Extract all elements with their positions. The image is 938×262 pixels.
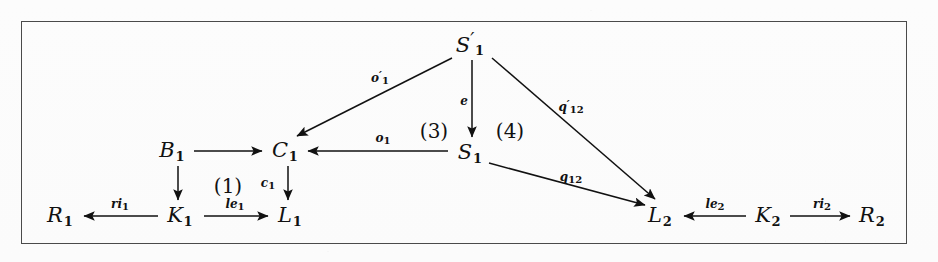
node-S1: S1 [458,142,482,165]
edge-label-e: e [460,95,468,107]
node-K2-base: K [755,203,771,227]
node-S1prime: S′1 [456,31,485,57]
edge-label-o1-prime-sub: 1 [382,75,389,86]
edge-label-q12-prime: q′12 [558,99,583,116]
node-L2: L2 [648,205,672,228]
edge-label-e-text: e [460,94,468,108]
node-K2-sub: 2 [772,213,781,228]
node-K1-base: K [167,203,183,227]
edge-label-le2-sub: 2 [718,201,725,212]
edge-label-ri1-sub: 1 [122,201,129,212]
edge-label-le1: le1 [225,198,244,213]
node-S1prime-base: S [456,33,471,57]
edge-label-o1: o1 [376,132,391,147]
node-C1: C1 [272,140,298,163]
node-B1-sub: 1 [175,148,184,163]
face-label-4: (4) [496,121,524,141]
node-L2-base: L [648,203,662,227]
node-R1: R1 [47,205,73,228]
node-L1-base: L [278,203,292,227]
node-K2: K2 [755,205,781,228]
edge-label-o1-text: o [376,131,384,145]
edge-label-o1-prime-text: o [371,71,379,85]
node-R2: R2 [859,205,885,228]
node-R1-sub: 1 [64,213,73,228]
edge-label-o1-prime: o′1 [371,70,389,87]
edge-label-q12-prime-sub: 12 [570,104,584,115]
edge-label-le1-sub: 1 [238,201,245,212]
face-label-1: (1) [214,176,242,196]
node-R2-base: R [859,203,875,227]
node-S1-sub: 1 [473,150,482,165]
edge-label-c1-sub: 1 [268,180,275,191]
edge-label-ri2-text: ri [813,197,824,211]
edge-label-le1-text: le [225,197,237,211]
node-C1-base: C [272,138,288,162]
edge-label-q12-sub: 12 [568,174,582,185]
edge-label-ri2: ri2 [813,198,831,213]
edge-label-ri1: ri1 [111,198,129,213]
node-K1-sub: 1 [184,213,193,228]
node-C1-sub: 1 [289,148,298,163]
node-L2-sub: 2 [663,213,672,228]
diagram-page: S′1 B1 C1 S1 R1 K1 L1 L2 K2 R2 c1 ri1 le… [0,0,938,262]
node-B1-base: B [159,138,175,162]
edge-label-ri1-text: ri [111,197,122,211]
edge-label-o1-sub: 1 [384,135,391,146]
node-R2-sub: 2 [876,213,885,228]
edge-label-le2: le2 [705,198,724,213]
node-L1-sub: 1 [293,213,302,228]
edge-label-ri2-sub: 2 [824,201,831,212]
edge-label-c1: c1 [261,177,275,192]
face-label-3: (3) [420,121,448,141]
node-L1: L1 [278,205,302,228]
node-R1-base: R [47,203,63,227]
edge-label-le2-text: le [705,197,717,211]
node-S1-base: S [458,140,473,164]
node-S1prime-sub: 1 [475,43,484,58]
node-K1: K1 [167,205,193,228]
edge-label-q12: q12 [560,171,582,186]
node-B1: B1 [159,140,184,163]
